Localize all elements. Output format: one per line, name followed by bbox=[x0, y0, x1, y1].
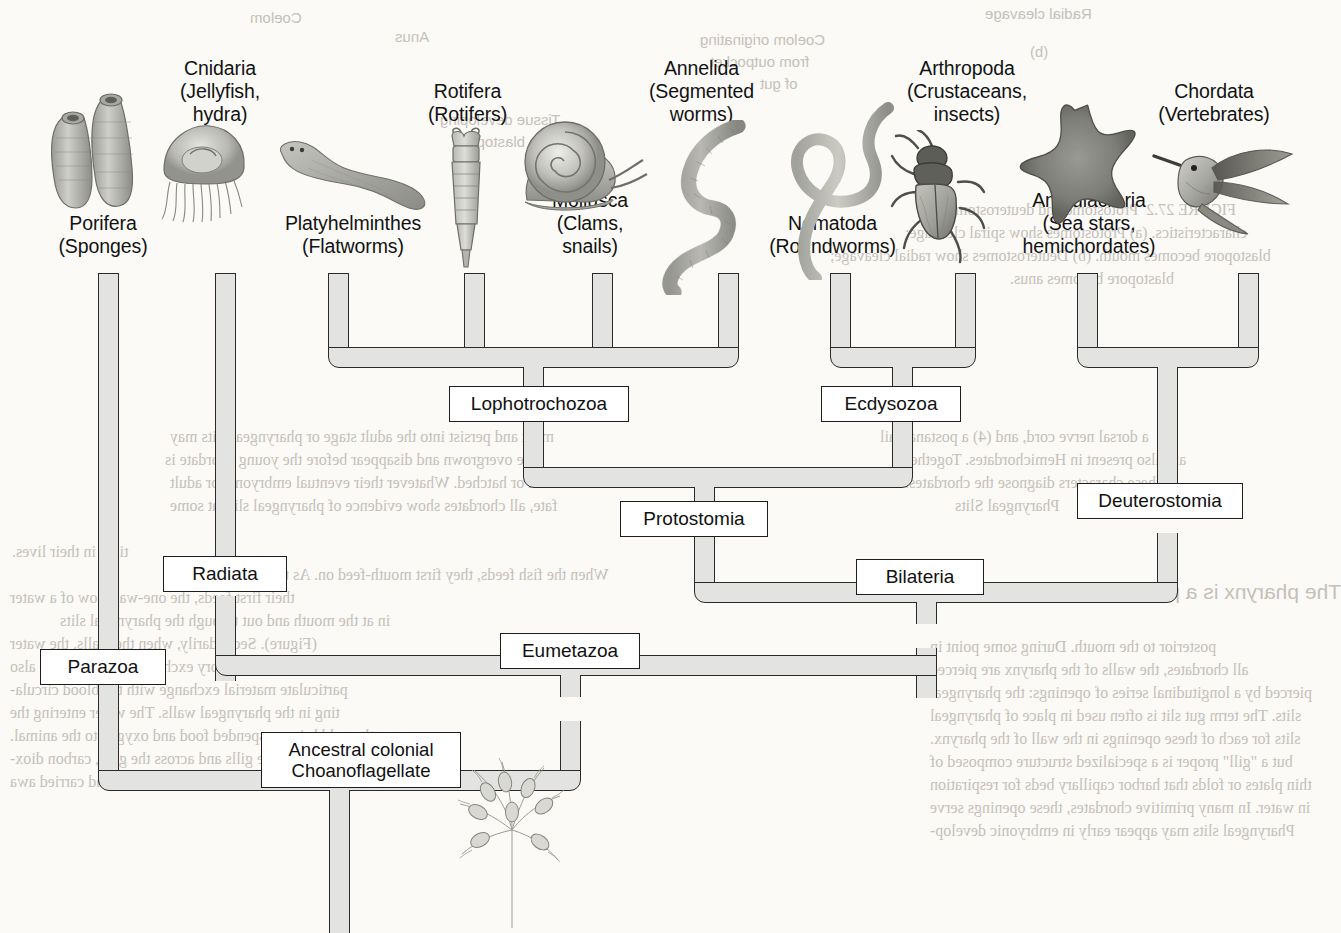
bleed-text: Coelom bbox=[250, 6, 302, 29]
segmented-worm-illustration bbox=[640, 120, 770, 295]
bleed-text: Anus bbox=[395, 25, 429, 48]
taxon-name: Annelida bbox=[614, 57, 789, 80]
bleed-text: a dorsal nerve cord, and (4) a postanal … bbox=[880, 425, 1149, 448]
branch-protostomia-bar bbox=[523, 467, 913, 488]
bleed-text: in water. In many primitive chordates, t… bbox=[930, 796, 1310, 819]
taxon-common: (Vertebrates) bbox=[1124, 103, 1304, 126]
branch-mollusca bbox=[592, 273, 613, 348]
clade-box-lophotrochozoa[interactable]: Lophotrochozoa bbox=[449, 386, 629, 422]
clade-box-bilateria[interactable]: Bilateria bbox=[856, 559, 984, 595]
branch-eumetazoa-stem bbox=[560, 675, 581, 697]
branch-porifera bbox=[98, 273, 119, 670]
clade-box-eumetazoa[interactable]: Eumetazoa bbox=[500, 633, 640, 669]
branch-deuterostomia-stem bbox=[1157, 367, 1178, 483]
rotifer-illustration bbox=[440, 124, 492, 272]
branch-ecdysozoa-down bbox=[892, 418, 913, 468]
clade-box-protostomia[interactable]: Protostomia bbox=[620, 501, 768, 537]
taxon-common: (Sponges) bbox=[28, 235, 178, 258]
taxon-label-chordata: Chordata (Vertebrates) bbox=[1124, 80, 1304, 126]
branch-platyhelminthes bbox=[328, 273, 349, 348]
bleed-text: are also present in Hemichordates. Toget… bbox=[905, 448, 1186, 471]
branch-root-stem bbox=[329, 790, 350, 933]
branch-chordata bbox=[1238, 273, 1259, 348]
bleed-text: pierced by a longitudinal series of open… bbox=[930, 681, 1312, 704]
taxon-common: (Clams, snails) bbox=[520, 212, 660, 258]
bleed-text: thin plates or folds that harbor capilla… bbox=[930, 773, 1312, 796]
bleed-text: slits. The term gut slit is often used i… bbox=[930, 704, 1301, 727]
branch-deuterostomia-down bbox=[1157, 533, 1178, 583]
branch-lophotrochozoa-bar bbox=[328, 347, 739, 368]
branch-deuterostomia-bar bbox=[1077, 347, 1259, 368]
taxon-label-platyhelminthes: Platyhelminthes (Flatworms) bbox=[258, 212, 448, 258]
taxon-name: Rotifera bbox=[400, 80, 535, 103]
sponge-illustration bbox=[40, 78, 150, 213]
bleed-text: Pharyngeal slits may appear early in emb… bbox=[930, 819, 1295, 842]
branch-ecdysozoa-bar bbox=[830, 347, 976, 368]
bleed-text: posterior to the mouth. During some poin… bbox=[930, 635, 1216, 658]
taxon-label-cnidaria: Cnidaria (Jellyfish, hydra) bbox=[140, 57, 300, 126]
bleed-text: Pharyngeal Slits bbox=[955, 494, 1059, 517]
branch-cnidaria bbox=[215, 273, 236, 563]
bleed-text: all chordates, the walls of the pharynx … bbox=[930, 658, 1249, 681]
beetle-illustration bbox=[888, 130, 998, 265]
branch-ambulacraria bbox=[1077, 273, 1098, 348]
branch-lophotrochozoa-down bbox=[523, 418, 544, 468]
clade-box-ecdysozoa[interactable]: Ecdysozoa bbox=[821, 386, 961, 422]
taxon-name: Cnidaria bbox=[140, 57, 300, 80]
branch-arthropoda bbox=[955, 273, 976, 348]
hummingbird-illustration bbox=[1152, 138, 1297, 243]
clade-box-parazoa[interactable]: Parazoa bbox=[40, 649, 166, 685]
branch-rotifera bbox=[464, 273, 485, 348]
bleed-text: Radial cleavage bbox=[985, 2, 1092, 25]
taxon-common: (Flatworms) bbox=[258, 235, 448, 258]
ancestor-line-1: Ancestral colonial bbox=[289, 739, 434, 760]
bleed-text: ting in the pharyngeal walls. The water … bbox=[10, 701, 340, 724]
branch-bilateria-stem bbox=[916, 602, 937, 624]
sea-star-illustration bbox=[1014, 96, 1149, 231]
clade-box-radiata[interactable]: Radiata bbox=[163, 556, 287, 592]
ancestor-line-2: Choanoflagellate bbox=[292, 760, 431, 781]
flatworm-illustration bbox=[272, 138, 432, 216]
clade-box-ancestral-choanoflagellate[interactable]: Ancestral colonial Choanoflagellate bbox=[261, 732, 461, 788]
branch-nematoda bbox=[830, 273, 851, 348]
choanoflagellate-illustration bbox=[448, 756, 578, 931]
branch-protostomia-down bbox=[694, 533, 715, 583]
bleed-text: slits for each of these openings in the … bbox=[930, 727, 1301, 750]
jellyfish-illustration bbox=[146, 118, 266, 223]
taxon-name: Arthropoda bbox=[872, 57, 1062, 80]
bleed-text: Coelom originating bbox=[700, 28, 825, 51]
taxon-name: Chordata bbox=[1124, 80, 1304, 103]
clade-box-deuterostomia[interactable]: Deuterostomia bbox=[1077, 483, 1243, 519]
bleed-text: but a "gill" proper is a specialized str… bbox=[930, 750, 1293, 773]
